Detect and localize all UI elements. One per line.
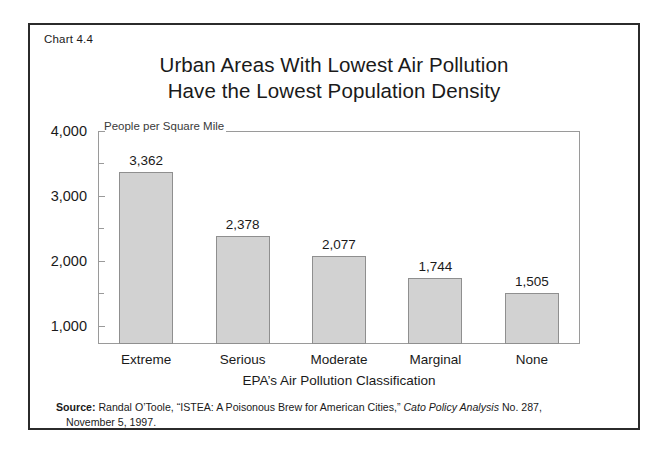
bar-group: 1,744Marginal — [387, 131, 483, 344]
y-axis-label: 1,000 — [51, 318, 87, 334]
y-axis-label: 3,000 — [51, 188, 87, 204]
bar[interactable] — [312, 256, 366, 344]
bar[interactable] — [216, 236, 270, 344]
bar-value-label: 2,077 — [291, 237, 387, 252]
chart-title-line-1: Urban Areas With Lowest Air Pollution — [30, 52, 638, 78]
source-text-before: Randal O’Toole, “ISTEA: A Poisonous Brew… — [95, 401, 403, 413]
bar-value-label: 2,378 — [194, 217, 290, 232]
bar[interactable] — [119, 172, 173, 344]
source-label: Source: — [56, 401, 95, 413]
bar-group: 2,378Serious — [194, 131, 290, 344]
plot-area: People per Square Mile 1,0002,0003,0004,… — [98, 131, 580, 344]
chart-title: Urban Areas With Lowest Air Pollution Ha… — [30, 52, 638, 104]
x-axis-category-label: Marginal — [387, 352, 483, 367]
bar-value-label: 3,362 — [98, 153, 194, 168]
x-axis-category-label: Extreme — [98, 352, 194, 367]
x-axis-title: EPA’s Air Pollution Classification — [98, 373, 580, 388]
bar-group: 3,362Extreme — [98, 131, 194, 344]
chart-figure: Chart 4.4 Urban Areas With Lowest Air Po… — [28, 23, 640, 430]
x-axis-category-label: Serious — [194, 352, 290, 367]
source-text-after: No. 287, — [499, 401, 542, 413]
y-axis-label: 2,000 — [51, 253, 87, 269]
bar-value-label: 1,505 — [484, 274, 580, 289]
bar-group: 2,077Moderate — [291, 131, 387, 344]
y-axis-label: 4,000 — [51, 123, 87, 139]
bar[interactable] — [408, 278, 462, 344]
bar-group: 1,505None — [484, 131, 580, 344]
source-publication: Cato Policy Analysis — [403, 401, 499, 413]
bar-value-label: 1,744 — [387, 259, 483, 274]
x-axis-category-label: Moderate — [291, 352, 387, 367]
source-line-2: November 5, 1997. — [66, 415, 620, 430]
source-note: Source: Randal O’Toole, “ISTEA: A Poison… — [56, 400, 620, 429]
x-axis-category-label: None — [484, 352, 580, 367]
chart-number-label: Chart 4.4 — [44, 33, 93, 45]
bar[interactable] — [505, 293, 559, 344]
chart-title-line-2: Have the Lowest Population Density — [30, 78, 638, 104]
